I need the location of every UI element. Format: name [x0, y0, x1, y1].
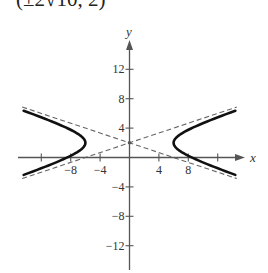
- y-tick-label: −4: [112, 180, 125, 194]
- y-tick-label: 4: [119, 121, 125, 135]
- x-axis-label: x: [249, 150, 256, 165]
- y-axis-label: y: [124, 24, 132, 39]
- hyperbola-graph: x y −8−4481284−4−8−12: [0, 0, 268, 273]
- x-tick-label: −8: [64, 163, 77, 177]
- y-tick-label: −8: [112, 209, 125, 223]
- center-point: [128, 141, 132, 145]
- right-branch: [174, 111, 236, 175]
- y-tick-label: 8: [119, 92, 125, 106]
- x-axis-arrow-icon: [235, 154, 245, 161]
- y-axis-arrow-icon: [126, 40, 133, 50]
- x-tick-label: 8: [185, 163, 191, 177]
- y-tick-label: −12: [106, 239, 125, 253]
- y-tick-label: 12: [113, 62, 125, 76]
- axes: x y: [18, 24, 256, 270]
- x-tick-label: 4: [156, 163, 162, 177]
- x-tick-label: −4: [94, 163, 107, 177]
